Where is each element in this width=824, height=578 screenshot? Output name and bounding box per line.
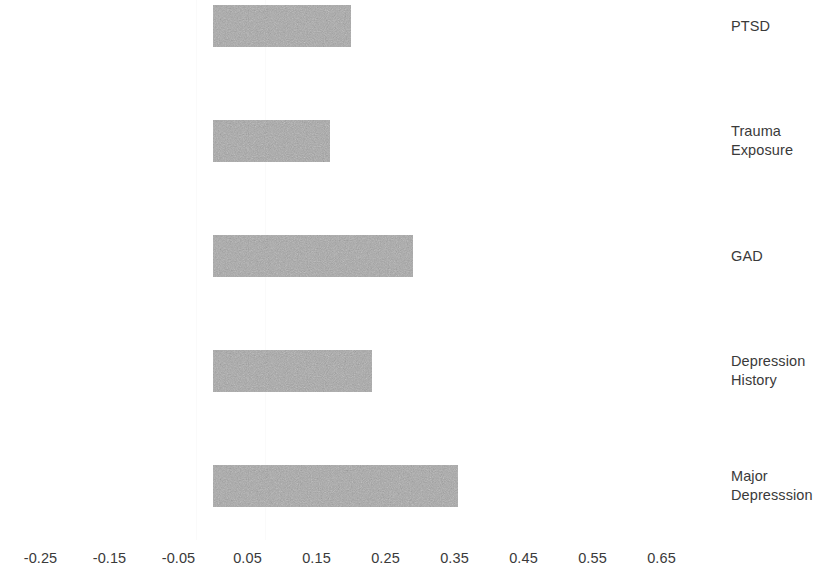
category-label: PTSD: [731, 17, 824, 36]
bar-texture: [213, 350, 372, 392]
x-tick-label: 0.35: [440, 548, 469, 568]
x-tick-label: 0.45: [509, 548, 538, 568]
bar: [213, 235, 413, 277]
category-label: GAD: [731, 247, 824, 266]
bar-row: [0, 350, 824, 392]
category-label: Trauma Exposure: [731, 122, 824, 160]
bar-texture: [213, 120, 330, 162]
bar-row: [0, 5, 824, 47]
category-label: Depression History: [731, 352, 824, 390]
x-tick-label: 0.05: [233, 548, 262, 568]
x-tick-label: 0.55: [578, 548, 607, 568]
bar-row: [0, 235, 824, 277]
x-tick-label: 0.15: [302, 548, 331, 568]
bar-texture: [213, 235, 413, 277]
x-axis: -0.25-0.15-0.050.050.150.250.350.450.550…: [0, 548, 824, 578]
bar-texture: [213, 5, 351, 47]
plot-area: PTSDTrauma ExposureGADDepression History…: [0, 0, 824, 540]
category-label: Major Depresssion: [731, 467, 824, 505]
bar: [213, 5, 351, 47]
x-tick-label: -0.25: [24, 548, 58, 568]
bar: [213, 465, 458, 507]
bar-row: [0, 120, 824, 162]
x-tick-label: -0.15: [93, 548, 127, 568]
bar-texture: [213, 465, 458, 507]
x-tick-label: -0.05: [162, 548, 196, 568]
bar: [213, 120, 330, 162]
bar-row: [0, 465, 824, 507]
x-tick-label: 0.65: [647, 548, 676, 568]
x-tick-label: 0.25: [371, 548, 400, 568]
horizontal-bar-chart: PTSDTrauma ExposureGADDepression History…: [0, 0, 824, 578]
bar: [213, 350, 372, 392]
